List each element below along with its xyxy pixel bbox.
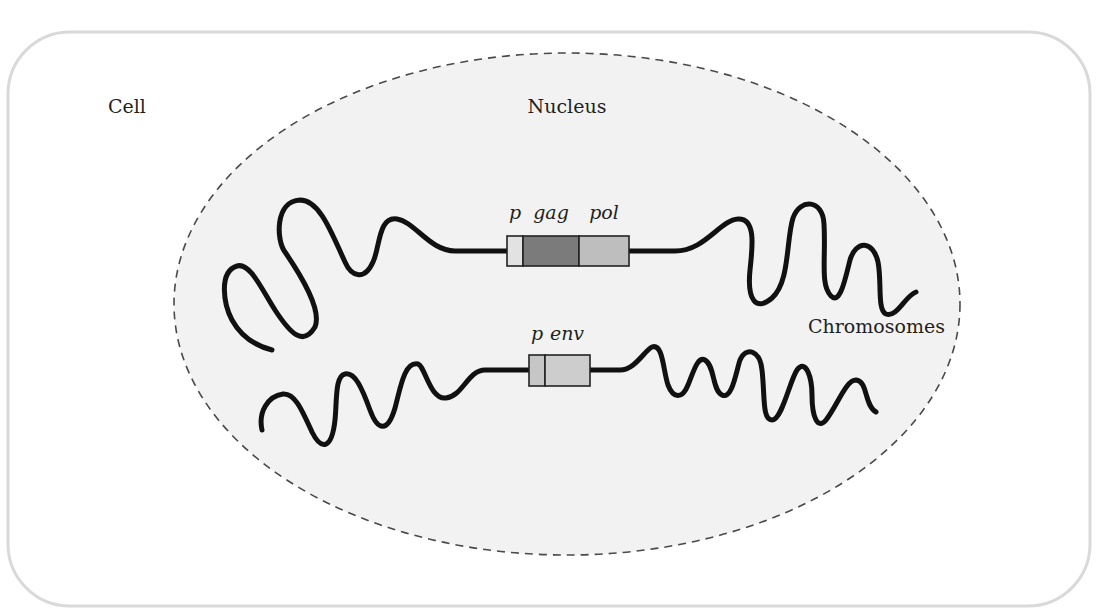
cell-label: Cell xyxy=(108,95,146,117)
gene-label-p-lower: p xyxy=(531,322,543,344)
upper-provirus-genes xyxy=(507,236,629,266)
gene-label-pol: pol xyxy=(589,201,619,223)
nucleus-label: Nucleus xyxy=(528,95,607,117)
gene-label-p-upper: p xyxy=(509,201,521,223)
gene-label-gag: gag xyxy=(533,201,569,223)
gene-box-p-lower xyxy=(529,355,545,386)
nucleus xyxy=(174,53,960,555)
lower-provirus-genes xyxy=(529,355,590,386)
gene-box-env xyxy=(545,355,590,386)
diagram-canvas: Cell Nucleus p gag pol p env Chromosomes xyxy=(0,0,1096,611)
gene-box-gag xyxy=(523,236,579,266)
gene-label-env: env xyxy=(550,322,584,344)
gene-box-pol xyxy=(579,236,629,266)
chromosomes-label: Chromosomes xyxy=(808,315,945,337)
gene-box-p-upper xyxy=(507,236,523,266)
